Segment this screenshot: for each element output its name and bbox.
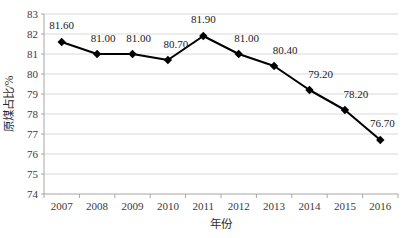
x-axis-tick-label: 2016: [369, 200, 392, 212]
y-axis-tick-label: 78: [27, 108, 39, 120]
data-point-label: 80.40: [273, 44, 298, 56]
x-axis-tick-label: 2012: [228, 200, 250, 212]
y-axis-tick-label: 79: [27, 88, 39, 100]
data-point-label: 76.70: [370, 117, 395, 129]
x-axis-tick-label: 2010: [157, 200, 180, 212]
y-axis-tick-label: 83: [27, 8, 39, 20]
x-axis-title: 年份: [210, 217, 233, 230]
x-axis-tick-label: 2013: [263, 200, 286, 212]
y-axis-title: 原煤占比/%: [2, 75, 15, 132]
data-point-label: 81.00: [91, 32, 116, 44]
data-point-label: 81.00: [126, 32, 151, 44]
y-axis-tick-label: 82: [27, 28, 38, 40]
data-point-label: 79.20: [308, 68, 333, 80]
data-point-label: 81.60: [49, 19, 74, 31]
y-axis-tick-label: 75: [27, 168, 39, 180]
data-point-label: 81.90: [191, 13, 216, 25]
x-axis-tick-label: 2011: [193, 200, 215, 212]
x-axis-tick-label: 2014: [299, 200, 322, 212]
x-axis-tick-label: 2008: [86, 200, 109, 212]
data-point-label: 80.70: [164, 38, 189, 50]
x-axis-tick-label: 2009: [122, 200, 145, 212]
chart-container: 74757677787980818283 2007200820092010201…: [0, 0, 407, 238]
x-axis-tick-label: 2015: [334, 200, 357, 212]
y-axis-tick-label: 74: [27, 188, 39, 200]
line-chart: 74757677787980818283 2007200820092010201…: [0, 0, 407, 238]
y-axis-tick-label: 80: [27, 68, 39, 80]
data-point-label: 78.20: [344, 88, 369, 100]
x-axis-tick-label: 2007: [51, 200, 74, 212]
y-axis-tick-label: 77: [27, 128, 39, 140]
data-point-label: 81.00: [234, 32, 259, 44]
y-axis-tick-label: 76: [27, 148, 39, 160]
y-axis-tick-label: 81: [27, 48, 38, 60]
